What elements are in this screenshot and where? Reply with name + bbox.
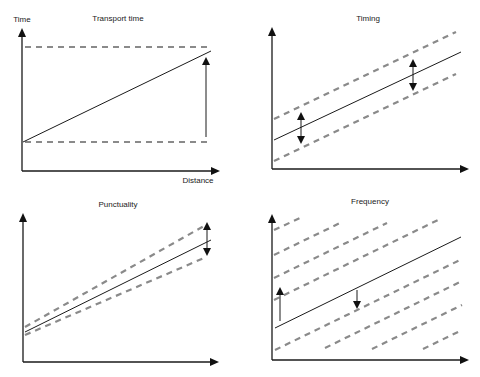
lower-dashed-line (25, 258, 204, 335)
y-axis-label: Time (13, 15, 31, 24)
up-arrow (276, 287, 284, 321)
panel-transport-time: Transport time Time Distance (13, 14, 220, 185)
panel-punctuality: Punctuality (19, 200, 219, 366)
double-arrow-left (297, 112, 305, 144)
panel-title: Transport time (92, 14, 144, 23)
arrowhead-up (202, 57, 210, 65)
panel-title: Frequency (351, 197, 389, 206)
upper-dashed-line (25, 226, 204, 327)
x-axis-arrowhead (211, 167, 220, 175)
x-axis-label: Distance (182, 176, 214, 185)
solid-trend-line (23, 51, 211, 142)
panel-timing: Timing (268, 14, 469, 173)
solid-trend-line (275, 237, 461, 328)
dashed-departure-line (274, 223, 340, 255)
dashed-departure-line (372, 305, 462, 349)
x-axis-arrowhead (460, 165, 469, 173)
dashed-departure-line (275, 260, 460, 350)
diagram-canvas: Transport time Time Distance Timing (0, 0, 480, 377)
y-axis-arrowhead (18, 28, 26, 37)
x-axis-arrowhead (460, 356, 469, 364)
dashed-departure-line (423, 330, 462, 349)
panel-title: Punctuality (98, 200, 137, 209)
dashed-departure-line (274, 218, 300, 230)
panel-frequency: Frequency (268, 197, 469, 364)
y-axis-arrowhead (268, 27, 276, 36)
dashed-departure-line (274, 223, 387, 278)
y-axis-arrowhead (268, 214, 276, 223)
down-arrow (353, 290, 361, 309)
upper-dashed-line (274, 32, 456, 119)
x-axis-arrowhead (210, 358, 219, 366)
panel-title: Timing (356, 14, 380, 23)
double-arrow (203, 222, 211, 256)
y-axis-arrowhead (19, 213, 27, 222)
solid-trend-line (25, 240, 211, 332)
double-arrow-right (409, 59, 417, 91)
solid-trend-line (274, 52, 461, 140)
